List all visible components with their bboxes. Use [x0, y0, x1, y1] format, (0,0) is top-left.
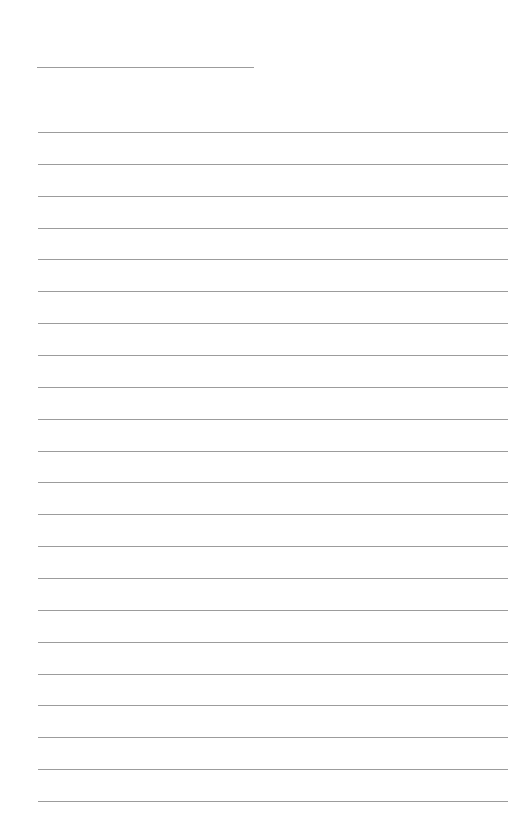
ruled-line: [38, 228, 508, 229]
lined-paper-page: [0, 0, 527, 833]
ruled-line: [38, 482, 508, 483]
ruled-line: [38, 291, 508, 292]
ruled-line: [38, 578, 508, 579]
ruled-line: [38, 196, 508, 197]
ruled-line: [38, 355, 508, 356]
ruled-line: [38, 387, 508, 388]
ruled-line: [38, 610, 508, 611]
ruled-line: [38, 164, 508, 165]
ruled-line: [38, 514, 508, 515]
ruled-line: [38, 737, 508, 738]
ruled-line: [38, 419, 508, 420]
ruled-line: [38, 546, 508, 547]
title-writing-line: [37, 67, 254, 68]
ruled-line: [38, 801, 508, 802]
ruled-line: [38, 769, 508, 770]
ruled-line: [38, 259, 508, 260]
ruled-line: [38, 705, 508, 706]
ruled-line: [38, 132, 508, 133]
ruled-line: [38, 642, 508, 643]
ruled-line: [38, 323, 508, 324]
ruled-line: [38, 451, 508, 452]
ruled-line: [38, 674, 508, 675]
